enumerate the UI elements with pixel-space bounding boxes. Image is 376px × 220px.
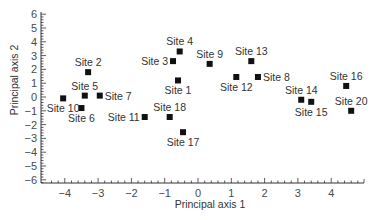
y-tick-label: 4 [31,36,37,48]
point-label: Site 10 [47,102,80,114]
square-marker-icon [207,61,213,67]
point-label: Site 1 [165,84,192,96]
x-ticks: −4−3−2−101234 [51,178,357,199]
y-tick-label: −1 [24,105,37,117]
square-marker-icon [298,97,304,103]
point-label: Site 16 [330,70,363,82]
square-marker-icon [308,99,314,105]
data-point: Site 4 [166,35,193,54]
point-label: Site 8 [263,71,290,83]
x-tick-label: −4 [59,187,72,199]
data-point: Site 16 [330,70,363,89]
square-marker-icon [348,108,354,114]
square-marker-icon [97,93,103,99]
data-point: Site 17 [167,129,200,148]
x-tick-label: 2 [262,187,268,199]
square-marker-icon [175,77,181,83]
data-points: Site 1Site 2Site 3Site 4Site 5Site 6Site… [47,35,368,148]
y-tick-label: 1 [31,77,37,89]
y-tick-label: 2 [31,63,37,75]
data-point: Site 18 [153,101,186,120]
data-point: Site 9 [196,48,223,67]
data-point: Site 20 [335,95,368,114]
data-point: Site 3 [141,55,176,67]
data-point: Site 5 [71,80,98,99]
y-ticks: 6543210−1−2−3−4−5−6 [24,8,46,186]
data-point: Site 8 [255,71,290,83]
y-axis-title: Principal axis 2 [8,45,20,116]
y-tick-label: −5 [24,160,37,172]
y-tick-label: 6 [31,8,37,20]
data-point: Site 12 [220,74,253,93]
point-label: Site 5 [71,80,98,92]
point-label: Site 14 [285,84,318,96]
point-label: Site 12 [220,81,253,93]
y-tick-label: −6 [24,174,37,186]
y-tick-label: −3 [24,132,37,144]
point-label: Site 15 [295,106,328,118]
square-marker-icon [60,95,66,101]
scatter-chart: 6543210−1−2−3−4−5−6 −4−3−2−101234 Site 1… [0,0,376,220]
data-point: Site 13 [235,45,268,64]
data-point: Site 2 [75,56,102,75]
point-label: Site 17 [167,136,200,148]
square-marker-icon [85,69,91,75]
y-tick-label: −2 [24,119,37,131]
point-label: Site 3 [141,55,168,67]
y-tick-label: 0 [31,91,37,103]
data-point: Site 10 [47,95,80,114]
square-marker-icon [233,74,239,80]
point-label: Site 4 [166,35,193,47]
y-tick-label: 3 [31,50,37,62]
x-tick-label: 3 [295,187,301,199]
square-marker-icon [170,58,176,64]
data-point: Site 11 [108,111,148,123]
square-marker-icon [167,114,173,120]
point-label: Site 20 [335,95,368,107]
square-marker-icon [343,83,349,89]
x-tick-label: −3 [92,187,105,199]
point-label: Site 7 [105,90,132,102]
square-marker-icon [255,74,261,80]
point-label: Site 11 [108,111,140,123]
square-marker-icon [248,58,254,64]
data-point: Site 7 [97,90,132,102]
square-marker-icon [82,93,88,99]
square-marker-icon [177,48,183,54]
point-label: Site 18 [153,101,186,113]
point-label: Site 9 [196,48,223,60]
x-axis-title: Principal axis 1 [175,198,246,210]
point-label: Site 2 [75,56,102,68]
x-tick-label: −2 [125,187,138,199]
square-marker-icon [142,114,148,120]
y-tick-label: 5 [31,22,37,34]
x-tick-label: 4 [328,187,334,199]
square-marker-icon [180,129,186,135]
point-label: Site 13 [235,45,268,57]
y-tick-label: −4 [24,146,37,158]
x-tick-label: −1 [158,187,171,199]
data-point: Site 1 [165,77,192,96]
